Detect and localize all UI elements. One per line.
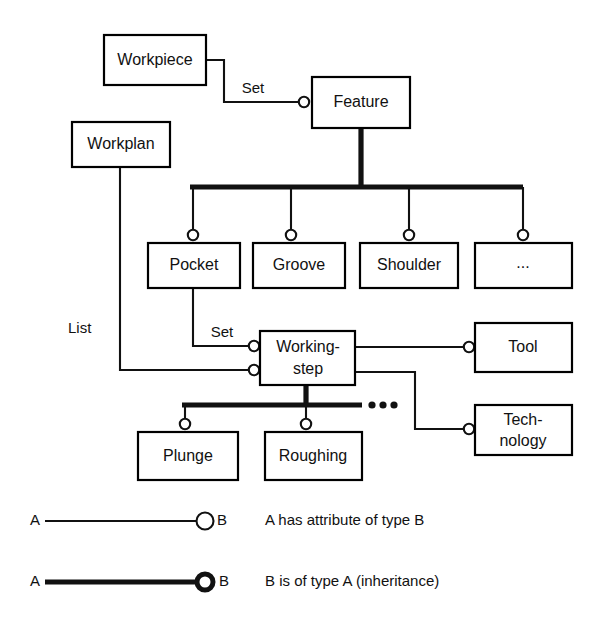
node-label-workingstep-line2: step [293, 360, 323, 377]
legend-attribute-right-label: B [217, 511, 227, 528]
socket-pocket-inheritance [188, 230, 198, 240]
diagram-canvas: Workpiece Feature Workplan Pocket Groove… [0, 0, 605, 630]
node-tool[interactable]: Tool [475, 323, 572, 372]
legend-attribute-socket-icon [197, 513, 214, 530]
legend-attribute-left-label: A [30, 511, 40, 528]
edge-label-set-pocket-workingstep: Set [211, 323, 234, 340]
node-feature[interactable]: Feature [312, 77, 410, 128]
node-roughing[interactable]: Roughing [265, 432, 362, 480]
node-label-more-feature: ... [516, 254, 529, 271]
edge-feature-inheritance-tree [188, 128, 528, 240]
edge-label-set-workpiece-feature: Set [242, 79, 265, 96]
legend-inheritance-socket-icon [197, 574, 213, 590]
edge-line-workingstep-technology [355, 372, 463, 429]
socket-workingstep-set [249, 341, 259, 351]
legend-inheritance-description: B is of type A (inheritance) [265, 572, 439, 589]
socket-feature-attribute [299, 97, 309, 107]
legend-attribute-description: A has attribute of type B [265, 511, 424, 528]
node-more-feature[interactable]: ... [475, 243, 572, 288]
workingstep-more-ellipsis-icon [368, 401, 397, 408]
legend-row-attribute: A B A has attribute of type B [30, 511, 424, 530]
node-label-technology-line1: Tech- [503, 411, 542, 428]
node-label-groove: Groove [273, 256, 326, 273]
node-workingstep[interactable]: Working- step [260, 331, 355, 385]
legend-inheritance-left-label: A [30, 572, 40, 589]
edge-pocket-has-workingstep [193, 288, 259, 351]
socket-workingstep-list [249, 365, 259, 375]
edge-workingstep-has-tool [355, 342, 474, 352]
node-workplan[interactable]: Workplan [72, 122, 170, 167]
node-label-shoulder: Shoulder [377, 256, 442, 273]
edge-workingstep-inheritance-tree [180, 385, 362, 429]
node-label-workpiece: Workpiece [117, 51, 192, 68]
socket-roughing-inheritance [301, 419, 311, 429]
node-groove[interactable]: Groove [253, 243, 345, 288]
socket-technology-attribute [464, 424, 474, 434]
node-technology[interactable]: Tech- nology [475, 405, 572, 455]
node-label-pocket: Pocket [170, 256, 219, 273]
node-pocket[interactable]: Pocket [148, 243, 240, 288]
legend-row-inheritance: A B B is of type A (inheritance) [30, 572, 439, 590]
node-label-roughing: Roughing [279, 447, 348, 464]
socket-plunge-inheritance [180, 419, 190, 429]
node-label-workplan: Workplan [87, 135, 154, 152]
socket-groove-inheritance [286, 230, 296, 240]
socket-shoulder-inheritance [404, 230, 414, 240]
socket-more-inheritance [518, 230, 528, 240]
node-label-technology-line2: nology [499, 432, 546, 449]
node-workpiece[interactable]: Workpiece [104, 35, 206, 85]
legend-inheritance-right-label: B [219, 572, 229, 589]
node-label-tool: Tool [508, 338, 537, 355]
socket-tool-attribute [464, 342, 474, 352]
node-shoulder[interactable]: Shoulder [360, 243, 458, 288]
edge-label-list-workplan: List [68, 319, 92, 336]
node-label-feature: Feature [333, 93, 388, 110]
node-label-plunge: Plunge [163, 447, 213, 464]
node-label-workingstep-line1: Working- [276, 338, 340, 355]
class-diagram: Workpiece Feature Workplan Pocket Groove… [0, 0, 605, 630]
node-plunge[interactable]: Plunge [138, 432, 238, 480]
